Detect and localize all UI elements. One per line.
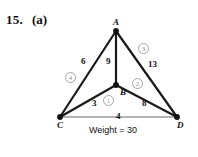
order-badge-edge-A-C: 4 — [65, 72, 76, 83]
node-label-B: B — [120, 88, 126, 97]
problem-figure: 15. (a) A B C D 6 9 13 3 8 4 4 3 1 2 Wei… — [0, 0, 198, 157]
order-badge-edge-C-B: 1 — [103, 95, 114, 106]
edge-weight-C-D: 4 — [116, 112, 121, 121]
node-label-A: A — [113, 18, 119, 27]
edge-weight-C-B: 3 — [92, 99, 97, 108]
edge-weight-A-C: 6 — [81, 57, 86, 66]
figure-caption: Weight = 30 — [89, 126, 137, 135]
node-A — [113, 28, 119, 34]
node-label-C: C — [57, 121, 63, 130]
edge-weight-A-D: 13 — [148, 60, 157, 69]
order-badge-edge-B-D: 2 — [132, 78, 143, 89]
edge-weight-A-B: 9 — [106, 57, 111, 66]
edge-weight-B-D: 8 — [142, 99, 147, 108]
node-B — [113, 82, 119, 88]
order-badge-edge-A-D: 3 — [138, 43, 149, 54]
node-label-D: D — [177, 121, 184, 130]
